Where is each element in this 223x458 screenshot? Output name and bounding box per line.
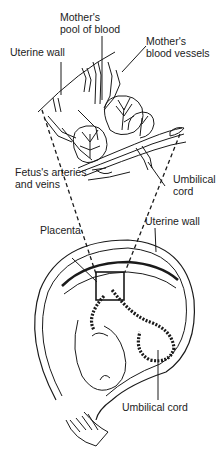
label-line: and veins: [15, 178, 86, 190]
label-mothers-pool: Mother's pool of blood: [60, 11, 120, 35]
label-placenta: Placenta: [40, 224, 81, 236]
label-uterine-wall-top: Uterine wall: [10, 46, 65, 58]
label-fetus-arteries: Fetus's arteries and veins: [15, 166, 86, 190]
diagram-artwork: [0, 0, 223, 458]
label-umbilical-cord-top: Umbilical cord: [173, 173, 216, 197]
inset-detail: [38, 52, 186, 180]
label-mothers-vessels: Mother's blood vessels: [146, 35, 210, 59]
inset-box: [96, 272, 124, 300]
label-line: Mother's: [146, 35, 210, 47]
label-umbilical-cord-bottom: Umbilical cord: [122, 401, 188, 413]
label-line: Fetus's arteries: [15, 166, 86, 178]
label-line: Umbilical: [173, 173, 216, 185]
uterus-illustration: [35, 240, 195, 446]
label-line: Mother's: [60, 11, 120, 23]
label-line: cord: [173, 185, 216, 197]
label-uterine-wall-bottom: Uterine wall: [145, 215, 200, 227]
label-line: pool of blood: [60, 23, 120, 35]
label-line: blood vessels: [146, 47, 210, 59]
